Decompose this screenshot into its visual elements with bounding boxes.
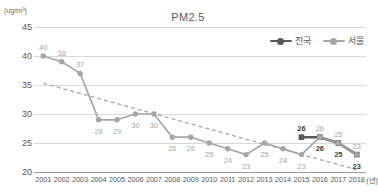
x-tick-2008: 2008 xyxy=(164,175,180,184)
y-tick-35: 35 xyxy=(2,80,32,90)
x-tick-2016: 2016 xyxy=(312,175,328,184)
x-tick-2001: 2001 xyxy=(35,175,51,184)
x-tick-2005: 2005 xyxy=(109,175,125,184)
x-tick-2006: 2006 xyxy=(128,175,144,184)
y-tick-25: 25 xyxy=(2,138,32,148)
x-tick-2003: 2003 xyxy=(72,175,88,184)
y-axis-labels: 202530354045 xyxy=(34,27,366,172)
y-tick-40: 40 xyxy=(2,51,32,61)
gridline-20 xyxy=(34,172,366,173)
x-tick-2015: 2015 xyxy=(294,175,310,184)
x-tick-2017: 2017 xyxy=(330,175,346,184)
x-tick-2012: 2012 xyxy=(238,175,254,184)
x-tick-2004: 2004 xyxy=(91,175,107,184)
y-tick-30: 30 xyxy=(2,109,32,119)
x-axis-labels: (년) 200120022003200420052006200720082009… xyxy=(34,175,366,189)
x-tick-2011: 2011 xyxy=(220,175,235,184)
x-tick-2009: 2009 xyxy=(183,175,199,184)
y-tick-45: 45 xyxy=(2,22,32,32)
x-tick-2013: 2013 xyxy=(257,175,273,184)
x-axis-unit-label: (년) xyxy=(366,175,378,185)
x-tick-2018: 2018 xyxy=(349,175,365,184)
x-tick-2010: 2010 xyxy=(201,175,217,184)
y-tick-20: 20 xyxy=(2,167,32,177)
x-tick-2002: 2002 xyxy=(54,175,70,184)
x-tick-2007: 2007 xyxy=(146,175,162,184)
chart-title: PM2.5 xyxy=(0,11,376,23)
x-tick-2014: 2014 xyxy=(275,175,291,184)
